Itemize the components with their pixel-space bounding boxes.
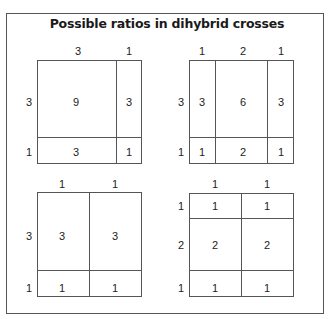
side-label: 1 [171,200,191,212]
cell-value: 1 [119,146,139,158]
top-label: 1 [119,45,139,57]
cell-value: 1 [205,200,225,212]
cell-value: 3 [66,146,86,158]
cell-value: 1 [271,146,291,158]
grid-divider [89,193,90,296]
cell-value: 1 [257,282,277,294]
cell-value: 3 [271,96,291,108]
grid-divider [38,270,141,271]
side-label: 3 [171,96,191,108]
grid-divider [190,137,293,138]
cell-value: 1 [105,282,125,294]
cell-value: 6 [233,96,253,108]
top-label: 1 [52,178,72,190]
cell-value: 9 [66,96,86,108]
side-label: 3 [19,230,39,242]
cell-value: 1 [257,200,277,212]
figure-title: Possible ratios in dihybrid crosses [0,16,334,31]
top-label: 1 [257,178,277,190]
top-label: 1 [192,45,212,57]
cell-value: 2 [233,146,253,158]
top-label: 2 [233,45,253,57]
grid-divider [215,61,216,163]
side-label: 1 [171,146,191,158]
top-label: 3 [68,45,88,57]
top-label: 1 [105,178,125,190]
cell-value: 1 [52,282,72,294]
side-label: 1 [19,146,39,158]
cell-value: 3 [52,230,72,242]
side-label: 1 [171,282,191,294]
cell-value: 3 [119,96,139,108]
side-label: 1 [19,282,39,294]
top-label: 1 [205,178,225,190]
grid-divider [38,137,141,138]
cell-value: 3 [105,230,125,242]
cell-value: 2 [257,239,277,251]
cell-value: 1 [205,282,225,294]
grid-divider [267,61,268,163]
side-label: 3 [19,96,39,108]
cell-value: 2 [205,239,225,251]
grid-divider [116,61,117,163]
cell-value: 1 [192,146,212,158]
side-label: 2 [171,239,191,251]
grid-divider [190,270,293,271]
top-label: 1 [271,45,291,57]
cell-value: 3 [192,96,212,108]
grid-divider [241,194,242,296]
grid-divider [190,218,293,219]
